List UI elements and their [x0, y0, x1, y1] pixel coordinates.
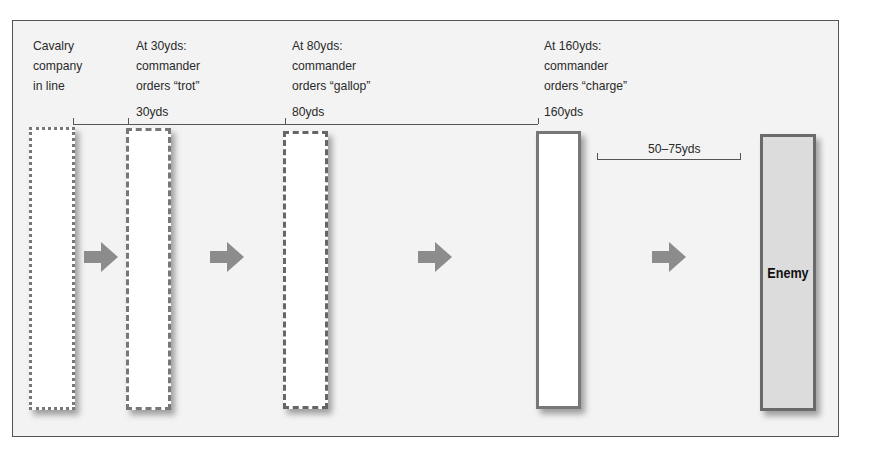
formation-trot	[126, 128, 171, 410]
gap-ruler	[597, 159, 741, 160]
right-arrow-icon	[652, 242, 686, 272]
right-arrow-icon	[210, 242, 244, 272]
gap-ruler-tick	[740, 153, 741, 159]
enemy-label: Enemy	[767, 265, 808, 281]
distance-ruler	[73, 124, 538, 125]
stage-3-label: At 80yds: commander orders “gallop”	[292, 36, 370, 96]
stage-4-label: At 160yds: commander orders “charge”	[544, 36, 627, 96]
formation-charge	[536, 131, 581, 409]
distance-80yds: 80yds	[292, 104, 324, 120]
gap-ruler-tick	[597, 153, 598, 159]
stage-2-label: At 30yds: commander orders “trot”	[136, 36, 200, 96]
ruler-tick	[538, 118, 539, 124]
ruler-tick	[73, 118, 74, 124]
enemy-formation: Enemy	[760, 134, 816, 411]
distance-160yds: 160yds	[544, 104, 583, 120]
right-arrow-icon	[84, 242, 118, 272]
distance-30yds: 30yds	[136, 104, 168, 120]
right-arrow-icon	[418, 242, 452, 272]
stage-1-label: Cavalry company in line	[33, 36, 82, 96]
formation-gallop	[283, 131, 328, 409]
gap-distance-label: 50–75yds	[648, 141, 701, 157]
ruler-tick	[285, 118, 286, 124]
ruler-tick	[128, 118, 129, 124]
formation-in-line	[29, 127, 75, 410]
